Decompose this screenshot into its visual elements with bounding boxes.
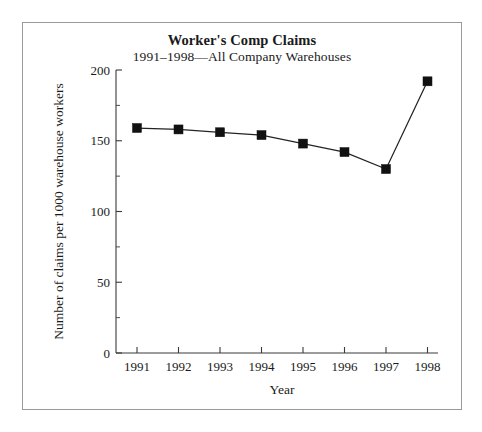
x-tick-label: 1993 xyxy=(207,359,233,374)
x-tick-label: 1995 xyxy=(290,359,316,374)
line-chart-plot: 0 50 100 150 200 1991 1992 1993 1994 199… xyxy=(23,23,463,411)
x-tick-label: 1998 xyxy=(415,359,441,374)
y-tick-label: 0 xyxy=(104,346,111,361)
data-point-marker xyxy=(423,77,432,86)
x-axis-tick-labels: 1991 1992 1993 1994 1995 1996 1997 1998 xyxy=(124,359,441,374)
y-tick-label: 200 xyxy=(91,63,111,78)
y-axis-tick-labels: 0 50 100 150 200 xyxy=(91,63,111,361)
x-axis-title: Year xyxy=(270,382,295,397)
y-axis-title: Number of claims per 1000 warehouse work… xyxy=(51,83,66,339)
x-tick-label: 1992 xyxy=(166,359,192,374)
x-tick-label: 1991 xyxy=(124,359,150,374)
y-tick-label: 100 xyxy=(91,204,111,219)
y-axis-major-ticks xyxy=(116,70,122,353)
data-series xyxy=(133,77,433,174)
data-point-marker xyxy=(257,131,266,140)
data-point-marker xyxy=(382,165,391,174)
data-point-marker xyxy=(133,124,142,133)
y-tick-label: 50 xyxy=(97,275,110,290)
data-point-marker xyxy=(174,125,183,134)
x-axis-ticks xyxy=(137,347,428,353)
data-point-marker xyxy=(340,148,349,157)
data-point-marker xyxy=(216,128,225,137)
x-tick-label: 1997 xyxy=(373,359,400,374)
figure-panel: Worker's Comp Claims 1991–1998—All Compa… xyxy=(22,22,462,410)
data-point-marker xyxy=(299,139,308,148)
x-tick-label: 1996 xyxy=(332,359,359,374)
y-tick-label: 150 xyxy=(91,133,111,148)
x-tick-label: 1994 xyxy=(249,359,276,374)
series-markers xyxy=(133,77,433,174)
